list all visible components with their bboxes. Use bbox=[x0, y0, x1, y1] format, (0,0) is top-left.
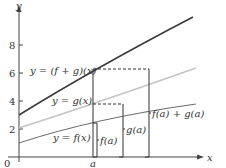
x-axis-arrow-icon bbox=[197, 155, 204, 160]
y-tick-label-8: 8 bbox=[9, 40, 15, 51]
x-axis-label: x bbox=[207, 152, 213, 163]
origin-label: 0 bbox=[4, 158, 10, 168]
a-tick-label: a bbox=[90, 158, 96, 168]
label-fa-ga: f(a) + g(a) bbox=[151, 108, 204, 119]
bracket-f-a bbox=[93, 123, 99, 157]
label-fg-curve: y = (f + g)(x) bbox=[29, 65, 97, 76]
y-tick-label-6: 6 bbox=[9, 68, 15, 79]
function-sum-graph: y x 0 a 8 6 4 2 y = (f + g)(x) y = g(x) … bbox=[0, 0, 226, 168]
y-axis-label: y bbox=[15, 0, 22, 11]
label-g-a: g(a) bbox=[126, 124, 146, 135]
label-f-a: f(a) bbox=[99, 135, 118, 146]
bracket-g-a bbox=[119, 104, 125, 157]
bracket-fa-ga bbox=[145, 69, 151, 157]
y-tick-label-2: 2 bbox=[9, 124, 15, 135]
label-g-curve: y = g(x) bbox=[51, 95, 92, 106]
label-f-curve: y = f(x) bbox=[52, 132, 91, 143]
y-tick-label-4: 4 bbox=[9, 96, 15, 107]
